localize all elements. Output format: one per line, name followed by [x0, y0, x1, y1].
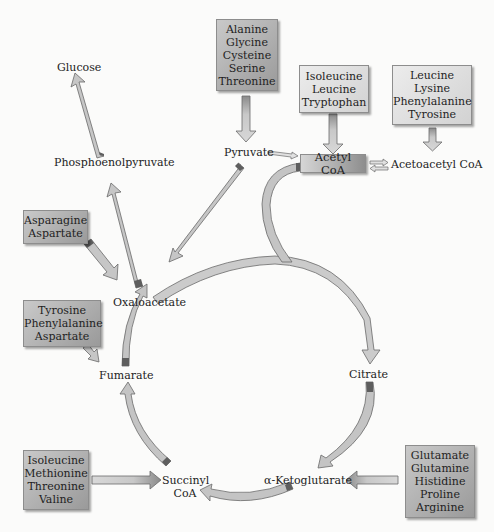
- amino-acid: Proline: [406, 488, 474, 501]
- amino-acid: Tryptophan: [300, 96, 368, 109]
- arrow-to-pyruvate: [236, 96, 256, 142]
- amino-acid: Isoleucine: [24, 454, 88, 467]
- amino-acid: Alanine: [217, 23, 277, 36]
- amino-acid: Aspartate: [24, 330, 100, 343]
- arrow-to-succinyl-coa: [92, 471, 161, 489]
- box-acetyl-coa: Acetyl CoA: [300, 154, 366, 173]
- amino-acid: Valine: [24, 493, 88, 506]
- amino-acid: Asparagine: [24, 214, 87, 227]
- arc-acetyl-coa-join: [262, 163, 300, 262]
- amino-acid: Lysine: [393, 82, 471, 95]
- box-fumarate-amino-acids: Tyrosine Phenylalanine Aspartate: [23, 300, 101, 347]
- amino-acid: Tyrosine: [24, 304, 100, 317]
- amino-acid: Phenylalanine: [393, 95, 471, 108]
- metabolite-oxaloacetate: Oxaloacetate: [113, 296, 186, 309]
- arrow-to-acetoacetyl-coa: [423, 128, 442, 151]
- amino-acid: Glutamate: [406, 449, 474, 462]
- succinyl-coa-line2: CoA: [162, 487, 208, 500]
- arc-citrate-to-akg: [318, 382, 374, 468]
- metabolite-acetoacetyl-coa: Acetoacetyl CoA: [391, 158, 483, 171]
- arrow-pep-to-glucose: [71, 73, 104, 158]
- arc-oaa-to-citrate: [153, 256, 380, 364]
- metabolite-succinyl-coa: Succinyl CoA: [162, 474, 208, 500]
- metabolite-phosphoenolpyruvate: Phosphoenolpyruvate: [54, 156, 175, 169]
- amino-acid: Leucine: [393, 69, 471, 82]
- arrow-asparagine-to-oaa: [84, 239, 118, 280]
- amino-acid: Phenylalanine: [24, 317, 100, 330]
- arrow-to-acetyl-coa: [323, 114, 343, 154]
- metabolite-glucose: Glucose: [57, 61, 101, 74]
- amino-acid: Glutamine: [406, 462, 474, 475]
- box-acetyl-coa-amino-acids: Isoleucine Leucine Tryptophan: [299, 65, 369, 113]
- arc-succinyl-coa-to-fumarate: [120, 382, 171, 466]
- amino-acid: Histidine: [406, 475, 474, 488]
- box-alpha-ketoglutarate-amino-acids: Glutamate Glutamine Histidine Proline Ar…: [405, 445, 475, 518]
- arrow-acetyl-acetoacetyl-reversible: [370, 159, 388, 172]
- amino-acid: Glycine: [217, 36, 277, 49]
- amino-acid: Tyrosine: [393, 108, 471, 121]
- amino-acid: Leucine: [300, 83, 368, 96]
- box-oxaloacetate-amino-acids: Asparagine Aspartate: [23, 210, 88, 244]
- metabolite-citrate: Citrate: [349, 368, 388, 381]
- arrow-pyruvate-to-oaa: [169, 163, 244, 262]
- box-pyruvate-amino-acids: Alanine Glycine Cysteine Serine Threonin…: [216, 19, 278, 91]
- box-acetoacetyl-coa-amino-acids: Leucine Lysine Phenylalanine Tyrosine: [392, 65, 472, 125]
- amino-acid: Aspartate: [24, 227, 87, 240]
- amino-acid: Threonine: [217, 75, 277, 88]
- metabolite-pyruvate: Pyruvate: [224, 146, 274, 159]
- amino-acid: Isoleucine: [300, 70, 368, 83]
- amino-acid: Cysteine: [217, 49, 277, 62]
- box-succinyl-coa-amino-acids: Isoleucine Methionine Threonine Valine: [23, 450, 89, 510]
- metabolite-fumarate: Fumarate: [99, 369, 153, 382]
- amino-acid: Arginine: [406, 501, 474, 514]
- citric-acid-cycle: [120, 163, 380, 501]
- amino-acid: Threonine: [24, 480, 88, 493]
- amino-acid: Methionine: [24, 467, 88, 480]
- amino-acid: Serine: [217, 62, 277, 75]
- metabolite-acetyl-coa: Acetyl CoA: [301, 151, 365, 177]
- metabolite-alpha-ketoglutarate: α-Ketoglutarate: [264, 474, 352, 487]
- arrow-to-alpha-ketoglutarate: [346, 471, 398, 489]
- succinyl-coa-line1: Succinyl: [162, 474, 208, 487]
